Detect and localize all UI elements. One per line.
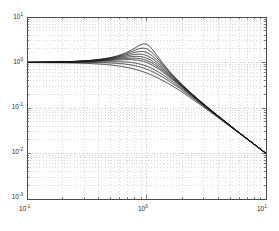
y-tick-label-10e-3: 10-3 (3, 194, 23, 201)
figure-canvas: 101 100 10-1 10-2 10-3 10-1 100 101 (0, 0, 279, 231)
y-tick-label-10e-1: 10-1 (3, 104, 23, 111)
x-tick-label-10e1: 101 (257, 206, 267, 213)
loglog-plot (0, 0, 279, 231)
y-tick-label-10e-2: 10-2 (3, 149, 23, 156)
x-tick-label-10e0: 100 (138, 206, 148, 213)
y-tick-label-10e0: 100 (3, 59, 23, 66)
y-tick-label-10e1: 101 (3, 14, 23, 21)
x-tick-label-10e-1: 10-1 (19, 206, 30, 213)
